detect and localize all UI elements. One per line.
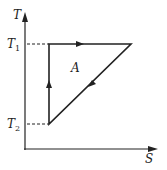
t-axis-label: T: [13, 9, 21, 21]
t-axis-arrow-icon: [22, 12, 28, 22]
s-axis-label: S: [145, 153, 153, 165]
ts-diagram: [0, 0, 167, 170]
right-arrow-icon: [76, 41, 84, 47]
down-left-arrow-icon: [88, 80, 96, 87]
up-arrow-icon: [46, 80, 52, 88]
region-label: A: [71, 62, 80, 74]
t2-label: T2: [7, 118, 20, 133]
t1-label: T1: [7, 38, 20, 53]
